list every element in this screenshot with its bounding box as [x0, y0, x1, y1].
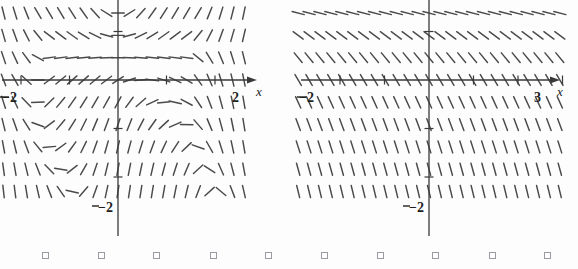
slope-segment — [159, 120, 168, 128]
slope-segment — [412, 12, 424, 15]
slope-segment — [57, 97, 65, 107]
slope-segment — [438, 119, 442, 131]
slope-segment — [503, 97, 508, 108]
slope-segment — [554, 12, 566, 15]
slope-segment — [149, 8, 156, 18]
slope-segment — [44, 121, 54, 129]
slope-segment — [69, 142, 76, 152]
slope-segment — [25, 185, 27, 197]
slope-segment — [219, 30, 223, 42]
slope-segment — [58, 8, 64, 19]
page-bullet-square — [265, 252, 272, 259]
slope-segment — [140, 163, 143, 175]
slope-segment — [47, 186, 52, 198]
slope-segment — [325, 12, 337, 15]
slope-segment — [24, 7, 29, 19]
slope-segment — [92, 97, 98, 108]
slope-segment — [469, 53, 477, 63]
slope-segment — [182, 143, 191, 152]
slope-segment — [2, 52, 6, 64]
slope-segment — [414, 53, 422, 63]
slope-segment — [23, 119, 30, 130]
slope-segment — [471, 163, 474, 175]
slope-segment — [297, 185, 300, 197]
slope-segment — [493, 163, 496, 175]
slope-segment — [194, 31, 202, 41]
slope-segment — [544, 32, 554, 39]
page-bullet-square — [98, 252, 105, 259]
slope-segment — [162, 163, 165, 175]
slope-segment — [435, 32, 445, 39]
slope-segment — [123, 57, 135, 58]
slope-segment — [471, 185, 474, 197]
slope-segment — [467, 12, 479, 15]
slope-segment — [160, 8, 167, 19]
slope-segment — [196, 186, 200, 198]
slope-segment — [2, 119, 5, 131]
slope-segment — [470, 97, 475, 108]
slope-segment — [104, 97, 110, 108]
slope-segment — [383, 119, 387, 131]
slope-segment — [193, 54, 203, 62]
slope-segment — [69, 8, 76, 19]
slope-segment — [329, 141, 333, 153]
slope-segment — [477, 12, 489, 15]
slope-segment — [180, 57, 192, 59]
slope-segment — [348, 32, 358, 39]
slope-segment — [449, 119, 453, 131]
slope-segment — [459, 97, 464, 108]
slope-segment — [361, 119, 365, 131]
slope-segment — [501, 53, 509, 63]
x-tick-label-left-positive: 2 — [232, 90, 239, 105]
slope-segment — [66, 57, 78, 58]
slope-segment — [2, 29, 5, 41]
slope-segment — [417, 185, 420, 197]
slope-segment — [159, 32, 169, 39]
slope-segment — [90, 33, 101, 39]
slope-segment — [394, 141, 398, 153]
slope-segment — [163, 185, 165, 197]
slope-segment — [123, 34, 135, 37]
slope-segment — [351, 185, 354, 197]
slope-segment — [481, 97, 486, 108]
slope-segment — [438, 185, 441, 197]
slope-segment — [504, 185, 507, 197]
slope-segment — [338, 53, 346, 63]
slope-segment — [384, 163, 387, 175]
slope-segment — [526, 185, 529, 197]
slope-segment — [14, 141, 17, 153]
slope-segment — [317, 97, 322, 108]
slope-segment — [547, 163, 550, 175]
slope-segment — [327, 53, 335, 63]
slope-segment — [340, 141, 344, 153]
slope-segment — [77, 57, 89, 58]
slope-segment — [360, 53, 368, 63]
left-slope-segments — [0, 0, 245, 198]
slope-segment — [45, 165, 54, 174]
slope-segment — [340, 185, 343, 197]
slope-segment — [126, 97, 133, 107]
slope-segment — [243, 185, 246, 197]
slope-segment — [504, 163, 507, 175]
slope-segment — [351, 141, 355, 153]
slope-segment — [56, 32, 66, 39]
slope-segment — [515, 185, 518, 197]
slope-segment — [372, 119, 376, 131]
slope-segment — [69, 97, 76, 107]
slope-segment — [390, 12, 402, 15]
page-bullet-square — [377, 252, 384, 259]
slope-segment — [169, 57, 181, 59]
slope-segment — [547, 119, 551, 131]
slope-segment — [172, 8, 178, 19]
slope-segment — [146, 57, 158, 58]
slope-segment — [523, 53, 531, 63]
slope-segment — [294, 53, 302, 63]
slope-segment — [296, 141, 300, 153]
slope-segment — [81, 141, 86, 152]
slope-segment — [340, 119, 344, 131]
slope-segment — [522, 32, 532, 39]
slope-segment — [127, 119, 132, 131]
page-bullet-square — [210, 252, 217, 259]
slope-segment — [151, 163, 154, 175]
slope-segment — [78, 32, 89, 39]
